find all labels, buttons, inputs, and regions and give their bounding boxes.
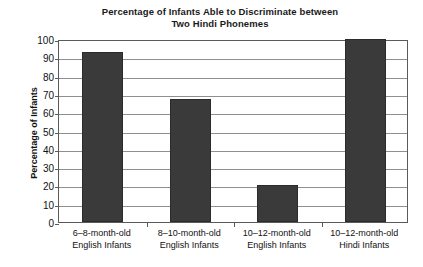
y-tick-label: 90	[22, 54, 54, 64]
x-axis-category-label: 6–8-month-oldEnglish Infants	[58, 228, 146, 251]
x-axis-category-label: 10–12-month-oldEnglish Infants	[233, 228, 321, 251]
y-tick-label: 0	[22, 219, 54, 229]
x-axis-category-label: 10–12-month-oldHindi Infants	[321, 228, 409, 251]
bar	[345, 39, 386, 222]
bar	[170, 99, 211, 222]
x-category-line-2: English Infants	[233, 240, 321, 252]
x-category-line-2: English Infants	[146, 240, 234, 252]
y-tick-label: 40	[22, 146, 54, 156]
chart-title-line-1: Percentage of Infants Able to Discrimina…	[102, 6, 338, 17]
x-tick-mark	[322, 222, 323, 227]
y-tick-label: 30	[22, 164, 54, 174]
x-category-line-2: English Infants	[58, 240, 146, 252]
y-tick-label: 60	[22, 109, 54, 119]
plot-area: 1009080706050403020100	[58, 40, 408, 223]
y-tick-label: 70	[22, 91, 54, 101]
chart-title-line-2: Two Hindi Phonemes	[171, 18, 268, 29]
y-tick-label: 80	[22, 73, 54, 83]
x-category-line-1: 8–10-month-old	[158, 228, 221, 238]
x-category-line-1: 6–8-month-old	[73, 228, 131, 238]
x-category-line-2: Hindi Infants	[321, 240, 409, 252]
bar-chart: Percentage of Infants Able to Discrimina…	[0, 0, 423, 267]
x-category-line-1: 10–12-month-old	[243, 228, 311, 238]
x-tick-mark	[147, 222, 148, 227]
y-tick-mark	[55, 224, 59, 225]
x-category-line-1: 10–12-month-old	[330, 228, 398, 238]
bars-group	[59, 41, 407, 222]
y-tick-label: 10	[22, 201, 54, 211]
x-axis-category-label: 8–10-month-oldEnglish Infants	[146, 228, 234, 251]
chart-title: Percentage of Infants Able to Discrimina…	[60, 6, 380, 30]
y-tick-label: 20	[22, 182, 54, 192]
bar	[82, 52, 123, 222]
x-tick-mark	[234, 222, 235, 227]
bar	[257, 185, 298, 222]
y-tick-label: 50	[22, 128, 54, 138]
y-tick-label: 100	[22, 36, 54, 46]
